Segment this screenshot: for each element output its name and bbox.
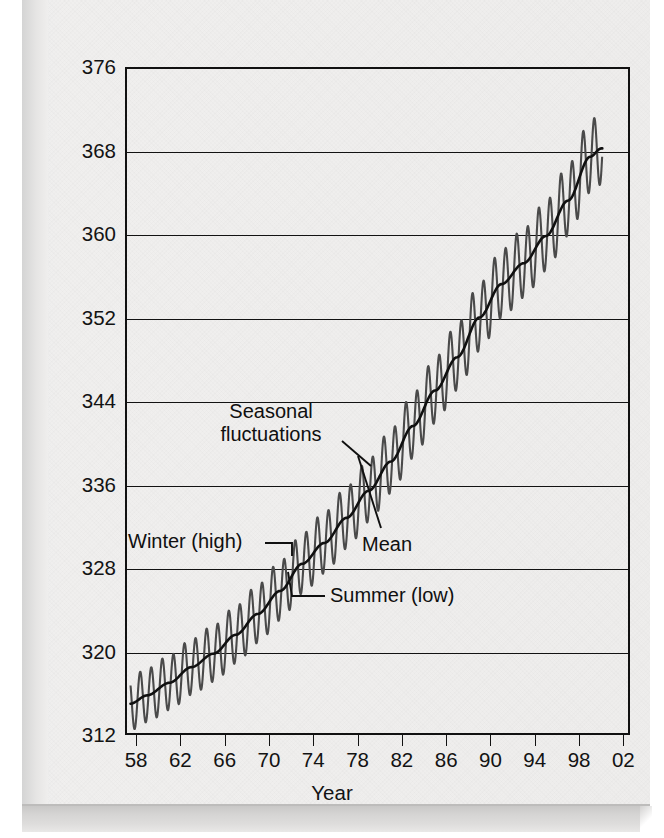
y-tick-label-352: 352: [8, 306, 116, 330]
page-edge-corner: [640, 806, 652, 832]
gridline-352: [127, 319, 628, 320]
gridline-336: [127, 486, 628, 487]
x-tick-label-90: 90: [466, 748, 514, 772]
y-tick-label-320: 320: [8, 640, 116, 664]
x-tick-mark-94: [535, 735, 536, 746]
x-tick-label-66: 66: [201, 748, 249, 772]
x-tick-mark-62: [180, 735, 181, 746]
x-tick-mark-58: [136, 735, 137, 746]
y-tick-label-336: 336: [8, 473, 116, 497]
y-tick-label-344: 344: [8, 389, 116, 413]
gridline-368: [127, 152, 628, 153]
annotation-seasonal-line2: fluctuations: [196, 423, 346, 446]
x-tick-label-82: 82: [378, 748, 426, 772]
gridline-360: [127, 235, 628, 236]
gridline-328: [127, 569, 628, 570]
annotation-mean: Mean: [362, 533, 412, 556]
x-tick-mark-02: [623, 735, 624, 746]
y-tick-label-360: 360: [8, 222, 116, 246]
x-axis-title: Year: [0, 781, 664, 805]
x-tick-mark-98: [579, 735, 580, 746]
x-tick-label-74: 74: [289, 748, 337, 772]
y-tick-label-376: 376: [8, 55, 116, 79]
annotation-seasonal-line1: Seasonal: [196, 400, 346, 423]
x-tick-label-58: 58: [112, 748, 160, 772]
x-tick-mark-86: [446, 735, 447, 746]
annotation-winter-high: Winter (high): [128, 530, 242, 553]
x-tick-mark-70: [269, 735, 270, 746]
x-tick-label-86: 86: [422, 748, 470, 772]
x-tick-mark-78: [358, 735, 359, 746]
x-tick-label-62: 62: [156, 748, 204, 772]
x-tick-mark-90: [490, 735, 491, 746]
x-tick-label-02: 02: [599, 748, 647, 772]
y-tick-label-312: 312: [8, 723, 116, 747]
x-tick-label-78: 78: [334, 748, 382, 772]
page-bottom-edge: [22, 806, 650, 832]
x-tick-label-94: 94: [511, 748, 559, 772]
y-tick-label-368: 368: [8, 139, 116, 163]
gridline-320: [127, 653, 628, 654]
x-tick-label-98: 98: [555, 748, 603, 772]
x-tick-label-70: 70: [245, 748, 293, 772]
y-tick-label-328: 328: [8, 556, 116, 580]
x-tick-mark-82: [402, 735, 403, 746]
annotation-seasonal-fluctuations: Seasonal fluctuations: [196, 400, 346, 446]
figure-page: Carbon dioxide concentration (parts per …: [0, 0, 664, 838]
annotation-summer-low: Summer (low): [330, 584, 454, 607]
x-tick-mark-66: [225, 735, 226, 746]
x-tick-mark-74: [313, 735, 314, 746]
